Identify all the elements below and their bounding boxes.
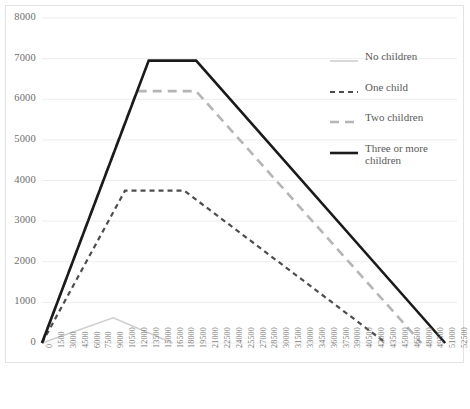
legend-swatch-two-children [330, 114, 358, 126]
x-axis-tick-label: 30000 [282, 327, 291, 348]
x-axis-tick-label: 19500 [199, 327, 208, 348]
legend-label-one-child: One child [365, 81, 408, 94]
x-axis-tick-label: 0 [45, 344, 54, 348]
x-axis-tick-label: 31500 [294, 327, 303, 348]
x-axis-tick-label: 52500 [460, 327, 469, 348]
x-axis-tick-label: 39000 [353, 327, 362, 348]
x-axis-tick-label: 9000 [116, 331, 125, 348]
x-axis-tick-label: 27000 [259, 327, 268, 348]
x-axis-tick-label: 4500 [81, 331, 90, 348]
x-axis-tick-label: 51000 [448, 327, 457, 348]
x-axis-tick-label: 36000 [330, 327, 339, 348]
legend-swatch-three-or-more-children [330, 145, 358, 157]
x-axis-tick-label: 45000 [401, 327, 410, 348]
x-axis-tick-label: 12000 [140, 327, 149, 348]
legend-swatch-one-child [330, 84, 358, 96]
x-axis-tick-label: 18000 [187, 327, 196, 348]
x-axis-tick-label: 3000 [69, 331, 78, 348]
x-axis-tick-label: 49500 [436, 327, 445, 348]
legend-item-three-or-more-children[interactable]: Three or more children [330, 142, 466, 167]
legend-item-one-child[interactable]: One child [330, 81, 466, 96]
x-axis-tick-label: 28500 [270, 327, 279, 348]
x-axis-tick-label: 10500 [128, 327, 137, 348]
chart-legend: No children One child Two children Three… [330, 50, 466, 182]
x-axis-tick-label: 22500 [223, 327, 232, 348]
x-axis-tick-label: 1500 [57, 331, 66, 348]
x-axis-tick-label: 33000 [306, 327, 315, 348]
x-axis-tick-label: 13500 [152, 327, 161, 348]
x-axis-tick-label: 43500 [389, 327, 398, 348]
x-axis-tick-label: 25500 [247, 327, 256, 348]
x-axis-tick-label: 7500 [104, 331, 113, 348]
legend-item-no-children[interactable]: No children [330, 50, 466, 65]
legend-item-two-children[interactable]: Two children [330, 111, 466, 126]
x-axis-tick-label: 16500 [176, 327, 185, 348]
x-axis-tick-label: 15000 [164, 327, 173, 348]
x-axis-tick-label: 40500 [365, 327, 374, 348]
x-axis-tick-label: 34500 [318, 327, 327, 348]
legend-label-two-children: Two children [365, 111, 423, 124]
legend-swatch-no-children [330, 53, 358, 65]
chart-container: 010002000300040005000600070008000 015003… [0, 0, 470, 409]
legend-label-no-children: No children [365, 50, 417, 63]
x-axis-tick-label: 46500 [413, 327, 422, 348]
x-axis-tick-label: 21000 [211, 327, 220, 348]
x-axis-tick-label: 48000 [425, 327, 434, 348]
x-axis-tick-label: 24000 [235, 327, 244, 348]
x-axis-tick-label: 37500 [342, 327, 351, 348]
x-axis-tick-label: 42000 [377, 327, 386, 348]
x-axis-tick-label: 6000 [93, 331, 102, 348]
legend-label-three-or-more-children: Three or more children [365, 142, 466, 167]
